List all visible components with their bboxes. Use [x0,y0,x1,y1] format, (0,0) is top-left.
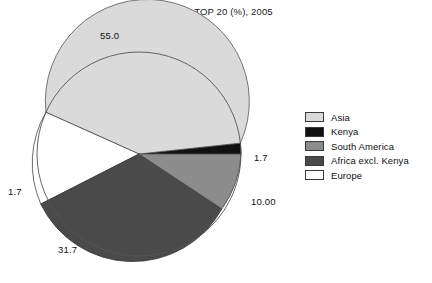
legend-swatch-kenya [305,127,324,137]
legend-label-asia: Asia [331,112,350,123]
legend-item-south-america[interactable]: South America [305,139,427,154]
legend-label-south-america: South America [331,141,394,152]
legend-item-asia[interactable]: Asia [305,110,427,125]
slice-label-asia: 55.0 [100,30,119,41]
legend-swatch-south-america [305,141,324,151]
legend-swatch-europe [305,170,324,180]
slice-label-kenya: 1.7 [254,152,268,163]
pie-chart-figure: All time TOP 20 (%), 2005 55.0 1.7 10.00… [0,0,432,283]
pie-plot-area: 55.0 1.7 10.00 31.7 1.7 [0,0,290,283]
legend-label-europe: Europe [331,170,362,181]
chart-legend: Asia Kenya South America Africa excl. Ke… [305,110,427,183]
legend-label-kenya: Kenya [331,126,358,137]
legend-label-africa: Africa excl. Kenya [331,155,409,166]
legend-swatch-asia [305,112,324,122]
legend-item-europe[interactable]: Europe [305,168,427,183]
slice-label-africa: 31.7 [58,244,77,255]
slice-label-europe: 1.7 [8,186,22,197]
slice-label-south-america: 10.00 [251,196,276,207]
pie-svg [0,0,290,283]
legend-swatch-africa [305,156,324,166]
legend-item-africa[interactable]: Africa excl. Kenya [305,154,427,169]
legend-item-kenya[interactable]: Kenya [305,125,427,140]
